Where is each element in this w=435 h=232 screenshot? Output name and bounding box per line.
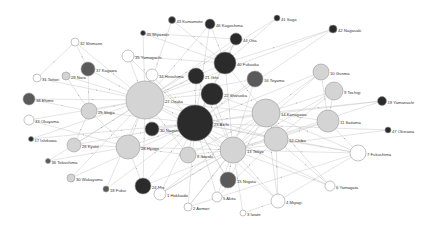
edge-arrow-marker: [167, 89, 168, 90]
edge-arrow-marker: [299, 130, 300, 131]
node-shimane[interactable]: 32 Shimane: [71, 38, 103, 46]
node-tochigi[interactable]: 9 Tochigi: [325, 82, 361, 100]
node-circle[interactable]: [71, 38, 79, 46]
node-nagasaki[interactable]: 42 Nagasaki: [329, 25, 361, 33]
node-nagano[interactable]: 30 Nagano: [145, 122, 181, 136]
node-layer: 32 Shimane43 Kumamoto46 Kagoshima41 Saga…: [23, 15, 415, 217]
edge-arrow-marker: [248, 143, 249, 144]
node-circle[interactable]: [220, 172, 236, 188]
node-circle[interactable]: [122, 50, 134, 62]
node-circle[interactable]: [325, 181, 335, 191]
node-kagawa[interactable]: 37 Kagawa: [81, 62, 118, 76]
node-kyoto[interactable]: 26 Kyoto: [67, 138, 99, 152]
node-circle[interactable]: [212, 192, 222, 202]
node-circle[interactable]: [116, 135, 140, 159]
node-circle[interactable]: [247, 71, 263, 87]
node-circle[interactable]: [385, 127, 391, 133]
node-circle[interactable]: [201, 83, 223, 105]
node-saga[interactable]: 41 Saga: [274, 15, 297, 22]
node-fukuoka[interactable]: 40 Fukuoka: [214, 52, 260, 74]
node-label: 10 Gunma: [330, 71, 350, 76]
node-circle[interactable]: [240, 210, 246, 216]
node-circle[interactable]: [81, 103, 97, 119]
node-circle[interactable]: [313, 64, 329, 80]
node-label: 41 Saga: [281, 17, 297, 22]
node-circle[interactable]: [188, 68, 204, 84]
node-circle[interactable]: [252, 99, 280, 127]
node-circle[interactable]: [67, 174, 75, 182]
node-hokkaido[interactable]: 1 Hokkaido: [154, 188, 189, 200]
node-label: 32 Shimane: [80, 41, 103, 46]
node-circle[interactable]: [67, 138, 81, 152]
node-circle[interactable]: [46, 159, 51, 164]
edge-arrow-marker: [218, 45, 219, 46]
node-label: 4 Miyagi: [286, 200, 302, 205]
node-shiga[interactable]: 25 Shiga: [81, 103, 115, 119]
node-circle[interactable]: [62, 72, 70, 80]
node-circle[interactable]: [146, 69, 158, 81]
node-circle[interactable]: [177, 105, 213, 141]
node-circle[interactable]: [274, 15, 280, 21]
edge-arrow-marker: [154, 152, 155, 153]
edge-arrow-marker: [273, 47, 274, 48]
node-circle[interactable]: [271, 194, 285, 208]
node-circle[interactable]: [126, 81, 164, 119]
node-osaka[interactable]: 27 Osaka: [126, 81, 184, 119]
node-circle[interactable]: [135, 178, 151, 194]
node-circle[interactable]: [220, 137, 246, 163]
node-iwate[interactable]: 3 Iwate: [240, 210, 261, 217]
node-label: 35 Yamaguchi: [135, 55, 161, 60]
node-hyogo[interactable]: 28 Hyogo: [116, 135, 160, 159]
node-aichi[interactable]: 23 Aichi: [177, 105, 229, 141]
node-wakayama[interactable]: 30 Wakayama: [67, 174, 103, 182]
node-circle[interactable]: [29, 137, 34, 142]
node-circle[interactable]: [264, 127, 288, 151]
node-circle[interactable]: [350, 145, 366, 161]
node-ishikawa[interactable]: 17 Ishikawa: [29, 137, 58, 143]
node-circle[interactable]: [33, 74, 41, 82]
edge-arrow-marker: [201, 43, 202, 44]
node-circle[interactable]: [378, 97, 387, 106]
node-fukui[interactable]: 18 Fukui: [103, 186, 126, 193]
node-toyama[interactable]: 16 Toyama: [247, 71, 285, 87]
node-circle[interactable]: [24, 115, 34, 125]
node-circle[interactable]: [230, 33, 242, 45]
node-circle[interactable]: [317, 110, 339, 132]
node-circle[interactable]: [141, 31, 146, 36]
node-circle[interactable]: [325, 82, 343, 100]
node-gunma[interactable]: 10 Gunma: [313, 64, 350, 80]
node-circle[interactable]: [145, 122, 159, 136]
node-oita[interactable]: 44 Oita: [230, 33, 257, 45]
node-kagoshima[interactable]: 46 Kagoshima: [205, 19, 243, 29]
node-okinawa[interactable]: 47 Okinawa: [385, 127, 415, 134]
edge-arrow-marker: [144, 69, 145, 70]
edge-arrow-marker: [135, 125, 136, 126]
node-label: 37 Kagawa: [96, 68, 118, 73]
node-circle[interactable]: [154, 188, 166, 200]
node-yamagata[interactable]: 6 Yamagata: [325, 181, 359, 191]
node-miyazaki[interactable]: 45 Miyazaki: [141, 31, 169, 37]
node-akita[interactable]: 5 Akita: [212, 192, 236, 202]
node-circle[interactable]: [205, 19, 215, 29]
node-label: 1 Hokkaido: [167, 193, 189, 198]
node-circle[interactable]: [169, 17, 176, 24]
node-niigata[interactable]: 15 Niigata: [220, 172, 257, 188]
node-yamanashi[interactable]: 19 Yamanashi: [378, 97, 414, 106]
node-label: 46 Kagoshima: [216, 23, 243, 28]
edge-7-4: [278, 153, 358, 201]
node-circle[interactable]: [329, 25, 337, 33]
node-kumamoto[interactable]: 43 Kumamoto: [169, 17, 204, 24]
node-circle[interactable]: [214, 52, 236, 74]
edge-arrow-marker: [96, 90, 97, 91]
edge-arrow-marker: [294, 145, 295, 146]
edge-arrow-marker: [83, 134, 84, 135]
node-circle[interactable]: [180, 147, 196, 163]
node-tottori[interactable]: 31 Tottori: [33, 74, 59, 82]
node-fukushima[interactable]: 7 Fukushima: [350, 145, 392, 161]
node-circle[interactable]: [103, 186, 109, 192]
node-circle[interactable]: [184, 203, 192, 211]
edge-arrow-marker: [164, 124, 165, 125]
node-gifu[interactable]: 21 Gifu: [188, 68, 219, 84]
node-yamaguchi[interactable]: 35 Yamaguchi: [122, 50, 161, 62]
node-circle[interactable]: [23, 93, 35, 105]
